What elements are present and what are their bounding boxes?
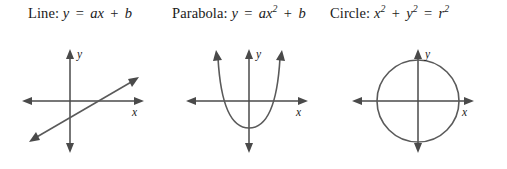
x-axis-line <box>186 97 308 105</box>
circle-graph-svg: y x <box>336 36 496 164</box>
y-axis-bottom-arrowhead <box>245 143 253 153</box>
caption-parabola-equals: = <box>242 5 255 21</box>
y-axis-top-arrowhead <box>245 49 253 59</box>
caption-line-plus: + <box>108 5 121 21</box>
caption-parabola: Parabola: y = ax2 + b <box>172 4 306 22</box>
y-axis-bottom-arrowhead <box>66 143 74 153</box>
graph-panel-parabola: y x <box>170 36 330 164</box>
caption-line-coefficient: ax <box>90 5 104 21</box>
caption-parabola-coefficient: ax <box>259 5 273 21</box>
y-axis-top-arrowhead <box>66 49 74 59</box>
caption-parabola-constant: b <box>298 5 305 21</box>
parabola-left-branch-arrowhead <box>213 50 222 61</box>
x-axis-label: x <box>295 106 302 118</box>
y-axis-label: y <box>76 48 83 61</box>
caption-line-lhs: y <box>63 5 70 21</box>
graph-panel-line: y x <box>6 36 166 164</box>
math-graphs-figure: Line: y = ax + b Parabola: y = ax2 + b C… <box>0 0 507 169</box>
parabola-right-branch-arrowhead <box>276 50 285 61</box>
caption-circle-plus: + <box>389 5 402 21</box>
caption-circle-equals: = <box>422 5 435 21</box>
caption-line-equals: = <box>73 5 86 21</box>
y-axis-top-arrowhead <box>414 49 422 59</box>
x-axis-left-arrowhead <box>352 97 362 105</box>
caption-parabola-title: Parabola: <box>172 5 228 21</box>
x-axis-label: x <box>461 106 468 118</box>
y-axis-label: y <box>255 48 262 61</box>
x-axis-label: x <box>131 106 138 118</box>
line-graph-svg: y x <box>6 36 166 164</box>
caption-circle-title: Circle: <box>330 5 370 21</box>
y-axis-label: y <box>424 48 431 61</box>
x-axis-right-arrowhead <box>464 97 474 105</box>
caption-circle-term2-exponent: 2 <box>413 3 418 14</box>
parabola-graph-svg: y x <box>170 36 330 164</box>
caption-circle: Circle: x2 + y2 = r2 <box>330 4 449 22</box>
x-axis-right-arrowhead <box>298 97 308 105</box>
x-axis-right-arrowhead <box>134 97 144 105</box>
graph-panel-circle: y x <box>336 36 496 164</box>
y-axis-bottom-arrowhead <box>414 143 422 153</box>
x-axis-left-arrowhead <box>186 97 196 105</box>
line-lower-left-arrowhead <box>29 132 40 142</box>
caption-parabola-lhs: y <box>231 5 238 21</box>
caption-line: Line: y = ax + b <box>28 4 132 22</box>
line-upper-right-arrowhead <box>128 77 139 87</box>
caption-circle-rhs-exponent: 2 <box>444 3 449 14</box>
x-axis-left-arrowhead <box>22 97 32 105</box>
caption-parabola-exponent: 2 <box>273 3 278 14</box>
caption-line-constant: b <box>125 5 132 21</box>
caption-circle-term1-exponent: 2 <box>380 3 385 14</box>
line-curve <box>29 77 139 142</box>
caption-parabola-plus: + <box>281 5 294 21</box>
caption-line-title: Line: <box>28 5 59 21</box>
x-axis-line <box>352 97 474 105</box>
x-axis-line <box>22 97 144 105</box>
